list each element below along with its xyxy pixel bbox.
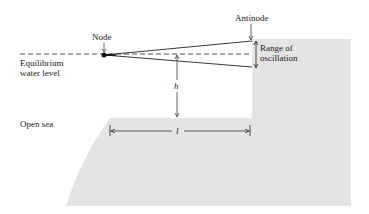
- seiche-diagram: Node Antinode Equilibrium water level Ra…: [0, 0, 369, 214]
- antinode-label: Antinode: [235, 13, 269, 23]
- equilibrium-label-line2: water level: [20, 68, 60, 78]
- range-label-line2: oscillation: [260, 53, 298, 63]
- range-label-line1: Range of: [260, 43, 293, 53]
- depth-symbol: h: [174, 81, 179, 91]
- upper-oscillation-line: [104, 41, 252, 55]
- open-sea-label: Open sea: [20, 119, 53, 129]
- equilibrium-label-line1: Equilibrium: [20, 58, 64, 68]
- shelf-landmass: [66, 39, 351, 206]
- node-label: Node: [92, 32, 112, 42]
